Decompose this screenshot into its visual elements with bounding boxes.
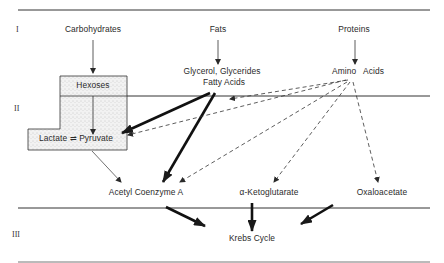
node-acetyl-coenzyme-a: Acetyl Coenzyme A	[109, 187, 183, 198]
arrow-amino-keto	[274, 82, 350, 182]
arrow-acetyl-krebs	[166, 207, 205, 226]
metabolism-diagram	[0, 0, 444, 263]
level-label-iii: III	[12, 230, 20, 239]
level-label-i: I	[16, 25, 19, 34]
node-carbohydrates: Carbohydrates	[65, 24, 121, 35]
node-krebs-cycle: Krebs Cycle	[229, 233, 275, 244]
arrow-fatty-pyruvate	[122, 93, 210, 133]
node-amino-acids: Amino Acids	[332, 66, 384, 77]
node-alpha-ketoglutarate: α-Ketoglutarate	[240, 187, 299, 198]
node-proteins: Proteins	[338, 24, 370, 35]
arrow-fatty-acetyl	[163, 93, 215, 182]
node-glycerol-glycerides: Glycerol, Glycerides	[184, 66, 261, 77]
node-fatty-acids: Fatty Acids	[203, 77, 245, 88]
node-oxaloacetate: Oxaloacetate	[357, 187, 408, 198]
node-fats: Fats	[210, 24, 227, 35]
arrow-amino-pyruvate	[128, 80, 346, 135]
node-hexoses: Hexoses	[76, 80, 109, 91]
arrow-amino-oxalo	[353, 82, 378, 182]
arrow-lactate-acetyl	[92, 151, 121, 182]
level-label-ii: II	[14, 104, 19, 113]
arrow-amino-acetyl	[180, 82, 347, 182]
node-lactate-pyruvate: Lactate ⇌ Pyruvate	[39, 133, 113, 144]
